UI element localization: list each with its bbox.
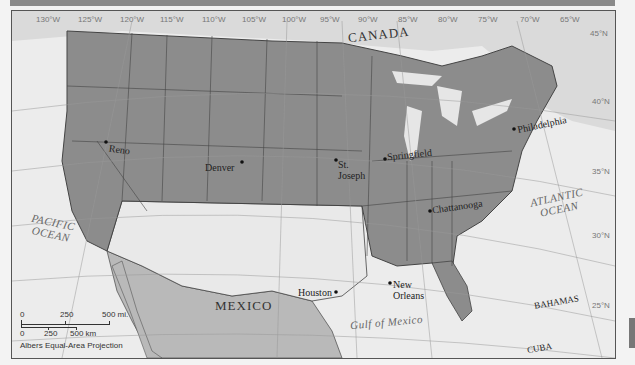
longitude-label: 115°W <box>160 15 184 24</box>
city-label-st-joseph: St. Joseph <box>338 159 365 181</box>
longitude-label: 125°W <box>78 15 102 24</box>
latitude-label: 40°N <box>592 97 610 106</box>
longitude-label: 105°W <box>242 15 266 24</box>
header-bar <box>10 0 615 6</box>
latitude-label: 25°N <box>592 301 610 310</box>
page-edge-tab <box>629 318 635 348</box>
latitude-label: 30°N <box>592 231 610 240</box>
longitude-label: 70°W <box>520 15 540 24</box>
scale-bar: 0 250 500 mi. 0 250 500 km Albers Equal-… <box>20 310 135 350</box>
projection-label: Albers Equal-Area Projection <box>20 341 135 350</box>
latitude-label: 35°N <box>592 167 610 176</box>
city-label-denver: Denver <box>205 162 234 173</box>
longitude-label: 100°W <box>282 15 306 24</box>
scale-line <box>20 322 135 329</box>
longitude-label: 90°W <box>358 15 378 24</box>
city-label-houston: Houston <box>298 287 332 298</box>
map-canvas <box>12 11 615 358</box>
longitude-label: 95°W <box>320 15 340 24</box>
longitude-label: 85°W <box>398 15 418 24</box>
longitude-label: 130°W <box>36 15 60 24</box>
latitude-label: 45°N <box>590 29 608 38</box>
longitude-label: 120°W <box>120 15 144 24</box>
city-label-new-orleans: New Orleans <box>393 279 424 301</box>
longitude-label: 75°W <box>478 15 498 24</box>
country-label-mexico: MEXICO <box>215 298 272 314</box>
longitude-label: 80°W <box>438 15 458 24</box>
longitude-label: 110°W <box>202 15 226 24</box>
map-frame: 130°W 125°W 120°W 115°W 110°W 105°W 100°… <box>11 10 616 359</box>
longitude-label: 65°W <box>560 15 580 24</box>
